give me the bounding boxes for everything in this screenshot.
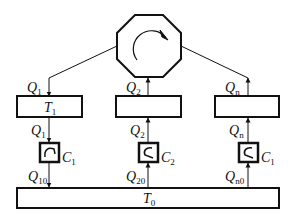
label-q1-upper: Q1 xyxy=(27,80,42,97)
label-qn-upper: Qn xyxy=(225,80,240,97)
label-qn0: Qn0 xyxy=(225,169,245,186)
label-c1: C1 xyxy=(62,150,76,167)
rotating-device-node xyxy=(117,15,181,77)
label-q1-mid: Q1 xyxy=(31,123,46,140)
controller-c1 xyxy=(40,143,59,162)
base-tank-t0: T0 xyxy=(17,188,279,208)
controller-c2 xyxy=(139,143,158,162)
branch-1: Q1 T1 Q1 C1 Q10 xyxy=(17,46,117,187)
tank-2 xyxy=(116,96,181,117)
feed-line-1 xyxy=(49,46,117,78)
label-cn: C1 xyxy=(261,150,275,167)
flow-diagram: Q1 T1 Q1 C1 Q10 Q2 Q2 C2 Q20 Qn Qn C1 xyxy=(0,0,295,223)
branch-n: Qn Qn C1 Qn0 xyxy=(181,46,279,188)
tank-n xyxy=(215,96,279,117)
controller-cn xyxy=(239,143,258,162)
label-q2-mid: Q2 xyxy=(130,123,145,140)
feed-line-n xyxy=(181,46,248,78)
label-c2: C2 xyxy=(161,150,175,167)
label-q20: Q20 xyxy=(126,169,146,186)
label-qn-mid: Qn xyxy=(229,123,244,140)
label-q10: Q10 xyxy=(28,169,48,186)
label-q2-upper: Q2 xyxy=(126,80,141,97)
branch-2: Q2 Q2 C2 Q20 xyxy=(116,78,181,188)
